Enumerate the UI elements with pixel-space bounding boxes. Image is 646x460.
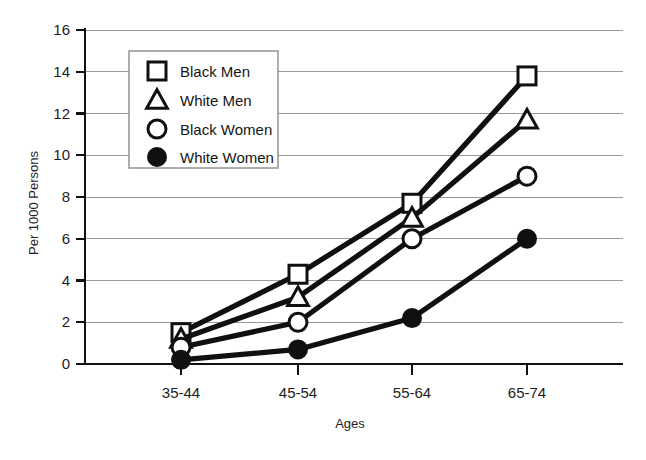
y-tick-label-8: 8: [62, 188, 70, 205]
data-point-2-3: [518, 167, 536, 185]
series-black-women: [172, 167, 536, 356]
line-chart: 16 14 12 10 8 6 4 2 0 Per 1000 Persons 3…: [0, 0, 646, 460]
legend-marker-0: [148, 62, 166, 80]
legend: Black Men White Men Black Women White Wo…: [129, 51, 278, 168]
data-point-0-1: [289, 265, 307, 283]
chart-container: 16 14 12 10 8 6 4 2 0 Per 1000 Persons 3…: [0, 0, 646, 460]
x-tick-label-65-74: 65-74: [508, 384, 546, 401]
legend-marker-3: [149, 149, 166, 166]
data-point-3-1: [290, 341, 307, 358]
data-point-2-2: [403, 230, 421, 248]
y-axis-title: Per 1000 Persons: [26, 150, 41, 255]
y-tick-marks: [76, 30, 85, 364]
legend-label-3: White Women: [180, 149, 274, 166]
y-tick-label-10: 10: [53, 146, 70, 163]
x-axis-title: Ages: [335, 416, 365, 431]
y-tick-label-14: 14: [53, 63, 70, 80]
y-tick-label-4: 4: [62, 272, 70, 289]
y-tick-label-12: 12: [53, 105, 70, 122]
y-tick-label-16: 16: [53, 21, 70, 38]
data-point-3-3: [519, 230, 536, 247]
legend-label-1: White Men: [180, 92, 252, 109]
x-tick-marks: [181, 364, 527, 375]
y-tick-label-2: 2: [62, 313, 70, 330]
y-tick-label-6: 6: [62, 230, 70, 247]
series-white-women: [173, 230, 536, 368]
data-point-0-3: [518, 67, 536, 85]
x-tick-label-45-54: 45-54: [279, 384, 317, 401]
y-tick-labels: 16 14 12 10 8 6 4 2 0: [53, 21, 70, 372]
x-tick-labels: 35-44 45-54 55-64 65-74: [162, 384, 546, 401]
data-point-3-0: [173, 351, 190, 368]
x-tick-label-55-64: 55-64: [393, 384, 431, 401]
data-point-3-2: [404, 310, 421, 327]
data-point-2-1: [289, 313, 307, 331]
x-tick-label-35-44: 35-44: [162, 384, 200, 401]
legend-label-0: Black Men: [180, 63, 250, 80]
legend-label-2: Black Women: [180, 121, 272, 138]
legend-marker-2: [148, 120, 166, 138]
data-point-1-3: [517, 109, 538, 128]
y-tick-label-0: 0: [62, 355, 70, 372]
